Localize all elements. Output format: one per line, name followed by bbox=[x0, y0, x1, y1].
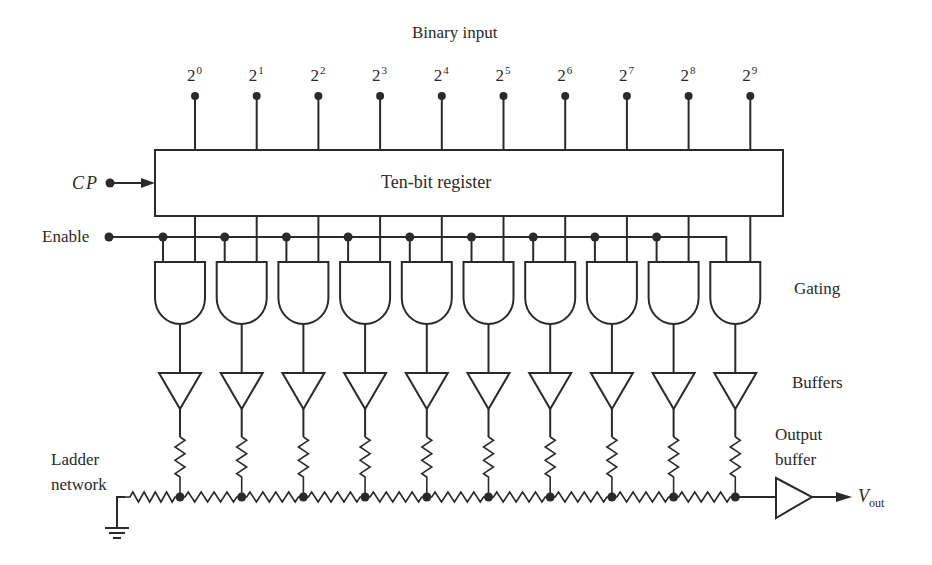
leg-resistor bbox=[607, 437, 617, 497]
bit-input-terminal bbox=[314, 92, 322, 100]
output-buffer-label-line2: buffer bbox=[775, 450, 816, 470]
bit-label-9: 29 bbox=[742, 64, 757, 86]
bit-input-terminal bbox=[561, 92, 569, 100]
gating-label: Gating bbox=[794, 279, 840, 299]
series-resistor bbox=[550, 492, 612, 502]
leg-resistor bbox=[484, 437, 494, 497]
bit-label-4: 24 bbox=[434, 64, 449, 86]
bit-input-terminal bbox=[746, 92, 754, 100]
bit-input-terminal bbox=[376, 92, 384, 100]
bit-input-terminal bbox=[191, 92, 199, 100]
and-gate bbox=[217, 262, 267, 324]
and-gate-row bbox=[155, 262, 760, 373]
vout-arrow-icon bbox=[836, 492, 852, 502]
buffer-triangle bbox=[406, 373, 448, 409]
series-resistor bbox=[125, 492, 180, 502]
ladder-label-line1: Ladder bbox=[51, 450, 99, 470]
leg-resistor bbox=[360, 437, 370, 497]
bit-input-terminal bbox=[623, 92, 631, 100]
vout-label: Vout bbox=[858, 486, 884, 507]
leg-resistor bbox=[422, 437, 432, 497]
and-gate bbox=[710, 262, 760, 324]
buffer-triangle bbox=[468, 373, 510, 409]
series-resistor bbox=[674, 492, 736, 502]
series-resistor bbox=[365, 492, 427, 502]
leg-resistor bbox=[545, 437, 555, 497]
enable-bend-line bbox=[657, 237, 727, 262]
and-gate bbox=[649, 262, 699, 324]
enable-line bbox=[105, 233, 727, 263]
ladder-network bbox=[105, 437, 740, 538]
bit-label-7: 27 bbox=[619, 64, 634, 86]
leg-resistor bbox=[175, 437, 185, 497]
ladder-label-line2: network bbox=[51, 475, 107, 495]
output-buffer-label-line1: Output bbox=[775, 425, 822, 445]
and-gate bbox=[340, 262, 390, 324]
dac-circuit-diagram bbox=[0, 0, 932, 565]
buffer-row bbox=[159, 373, 756, 437]
buffer-triangle bbox=[591, 373, 633, 409]
output-buffer-triangle bbox=[776, 478, 812, 518]
bit-input-terminal bbox=[438, 92, 446, 100]
bit-input-terminal bbox=[500, 92, 508, 100]
buffer-triangle bbox=[653, 373, 695, 409]
series-resistor bbox=[489, 492, 551, 502]
series-resistor bbox=[180, 492, 242, 502]
buffer-triangle bbox=[529, 373, 571, 409]
bit-label-2: 22 bbox=[310, 64, 325, 86]
and-gate bbox=[587, 262, 637, 324]
bit-label-6: 26 bbox=[557, 64, 572, 86]
buffer-triangle bbox=[159, 373, 201, 409]
output-buffer bbox=[735, 478, 852, 518]
clock-label: CP bbox=[72, 173, 99, 194]
leg-resistor bbox=[237, 437, 247, 497]
leg-resistor bbox=[669, 437, 679, 497]
bit-input-terminal bbox=[253, 92, 261, 100]
buffer-triangle bbox=[344, 373, 386, 409]
and-gate bbox=[402, 262, 452, 324]
leg-resistor bbox=[730, 437, 740, 497]
clock-terminal bbox=[106, 179, 115, 188]
bit-label-1: 21 bbox=[249, 64, 264, 86]
series-resistor bbox=[303, 492, 365, 502]
buffer-triangle bbox=[282, 373, 324, 409]
buffers-label: Buffers bbox=[792, 373, 843, 393]
and-gate bbox=[155, 262, 205, 324]
buffer-triangle bbox=[714, 373, 756, 409]
clock-arrow-icon bbox=[141, 178, 155, 188]
bit-label-0: 20 bbox=[187, 64, 202, 86]
bit-label-3: 23 bbox=[372, 64, 387, 86]
binary-input-title: Binary input bbox=[412, 23, 497, 43]
clock-input bbox=[106, 178, 156, 188]
bit-label-5: 25 bbox=[496, 64, 511, 86]
enable-label: Enable bbox=[42, 227, 89, 247]
and-gate bbox=[278, 262, 328, 324]
register-label: Ten-bit register bbox=[381, 172, 491, 193]
series-resistor bbox=[612, 492, 674, 502]
buffer-triangle bbox=[221, 373, 263, 409]
series-resistor bbox=[427, 492, 489, 502]
leg-resistor bbox=[298, 437, 308, 497]
enable-terminal bbox=[105, 233, 114, 242]
series-resistor bbox=[242, 492, 304, 502]
bit-label-8: 28 bbox=[681, 64, 696, 86]
and-gate bbox=[464, 262, 514, 324]
and-gate bbox=[525, 262, 575, 324]
ground-wire bbox=[117, 497, 125, 528]
bit-input-terminal bbox=[685, 92, 693, 100]
